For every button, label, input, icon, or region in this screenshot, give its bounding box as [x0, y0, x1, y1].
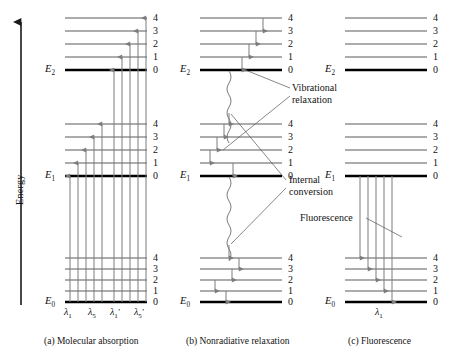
panel-c-E0-v0: 0	[433, 296, 438, 307]
panel-a-wavelength-1-prime: λ1′	[110, 306, 120, 320]
panel-c-E0-v3: 3	[433, 263, 438, 274]
panel-c-E1-manifold	[345, 124, 427, 176]
panel-b-E1-v1: 1	[288, 157, 293, 168]
panel-a-E2-subscript: 2	[51, 69, 55, 77]
panel-b-E0-v1: 1	[288, 285, 293, 296]
annotation-vibrational-relaxation: Vibrational relaxation	[292, 82, 337, 105]
panel-c-E1-label: E1	[325, 169, 335, 183]
panel-c-E1-v4: 4	[433, 118, 438, 129]
panel-a-E0-v0: 0	[153, 296, 158, 307]
panel-c-E2-manifold	[345, 18, 427, 70]
panel-b-E2-label: E2	[180, 63, 190, 77]
panel-b-E0-manifold	[200, 258, 282, 302]
panel-a-E0-manifold	[65, 258, 147, 302]
panel-a-wavelength-1: λ1	[64, 306, 72, 320]
panel-b-leader-internal-conversion	[231, 114, 286, 244]
panel-c-E2-v1: 1	[433, 51, 438, 62]
annotation-vibrational-relaxation-line1: Vibrational	[292, 82, 337, 94]
panel-b-E1-v4: 4	[288, 118, 293, 129]
figure-canvas: Energy E2 E1 E0 4 3 2 1 0 4 3 2 1 0 4 3 …	[0, 0, 471, 361]
panel-b-E0-v3: 3	[288, 263, 293, 274]
panel-a-E2-v2: 2	[153, 38, 158, 49]
panel-a-E2-v3: 3	[153, 25, 158, 36]
panel-b-E0-v4: 4	[288, 252, 293, 263]
panel-a-E1-v4: 4	[153, 118, 158, 129]
panel-c-E0-v1: 1	[433, 285, 438, 296]
panel-c-wavelength-1: λ1	[375, 306, 383, 320]
panel-a-E0-v1: 1	[153, 285, 158, 296]
panel-c-E0-manifold	[345, 258, 427, 302]
panel-a-E1-subscript: 1	[51, 175, 55, 183]
annotation-vibrational-relaxation-line2: relaxation	[292, 94, 337, 106]
panel-a-E2-v1: 1	[153, 51, 158, 62]
panel-b-E2-v3: 3	[288, 25, 293, 36]
panel-c-E1-v3: 3	[433, 131, 438, 142]
panel-b-E2-v1: 1	[288, 51, 293, 62]
panel-b-E2-v0: 0	[288, 64, 293, 75]
panel-a-E1-v3: 3	[153, 131, 158, 142]
annotation-internal-conversion-line2: conversion	[289, 186, 333, 198]
panel-a-E2-v4: 4	[153, 12, 158, 23]
panel-c-E1-v1: 1	[433, 157, 438, 168]
panel-b-E1-v3: 3	[288, 131, 293, 142]
annotation-fluorescence: Fluorescence	[300, 212, 353, 224]
panel-b-E0-v2: 2	[288, 274, 293, 285]
caption-panel-c: (c) Fluorescence	[348, 336, 411, 346]
panel-c-E2-v0: 0	[433, 64, 438, 75]
panel-b-internal-conversion-upper	[227, 71, 231, 143]
panel-c-E2-label: E2	[325, 63, 335, 77]
panel-b-E0-v0: 0	[288, 296, 293, 307]
panel-a-E2-manifold	[65, 18, 147, 70]
panel-a-E0-v3: 3	[153, 263, 158, 274]
panel-a-wavelength-5-prime: λ5′	[134, 306, 144, 320]
panel-b-E2-v4: 4	[288, 12, 293, 23]
caption-panel-a: (a) Molecular absorption	[44, 336, 138, 346]
panel-c-E2-v3: 3	[433, 25, 438, 36]
panel-c-E1-v0: 0	[433, 170, 438, 181]
panel-b-internal-conversion-lower	[227, 177, 231, 261]
panel-b-E1-v2: 2	[288, 144, 293, 155]
panel-a-E2-label: E2	[45, 63, 55, 77]
panel-b-E0-label: E0	[180, 295, 190, 309]
panel-a-E1-v1: 1	[153, 157, 158, 168]
panel-c-E0-v4: 4	[433, 252, 438, 263]
panel-c-E2-v2: 2	[433, 38, 438, 49]
panel-a-E0-label: E0	[45, 295, 55, 309]
panel-c-fluorescence-arrows	[360, 176, 392, 302]
panel-b-E1-label: E1	[180, 169, 190, 183]
panel-a-absorption-arrows-E2	[114, 18, 146, 302]
panel-b-nonradiative	[200, 18, 290, 302]
panel-a-E0-subscript: 0	[51, 301, 55, 309]
panel-b-E1-manifold	[200, 124, 282, 176]
panel-a-E2-v0: 0	[153, 64, 158, 75]
panel-c-E1-v2: 2	[433, 144, 438, 155]
panel-c-E0-label: E0	[325, 295, 335, 309]
panel-c-E0-v2: 2	[433, 274, 438, 285]
panel-a-E0-v2: 2	[153, 274, 158, 285]
panel-b-leader-vibrational-relaxation	[223, 69, 290, 150]
energy-axis-label: Energy	[14, 175, 25, 206]
panel-c-E2-v4: 4	[433, 12, 438, 23]
panel-b-E2-v2: 2	[288, 38, 293, 49]
panel-b-E2-manifold	[200, 18, 282, 70]
panel-a-absorption	[65, 18, 147, 302]
panel-a-absorption-arrows-E1	[70, 124, 102, 302]
panel-a-E1-manifold	[65, 124, 147, 176]
panel-a-wavelength-5: λ5	[88, 306, 96, 320]
panel-a-E1-v0: 0	[153, 170, 158, 181]
caption-panel-b: (b) Nonradiative relaxation	[186, 336, 289, 346]
panel-c-fluorescence	[345, 18, 427, 302]
panel-a-E1-label: E1	[45, 169, 55, 183]
panel-a-E1-v2: 2	[153, 144, 158, 155]
panel-a-E0-v4: 4	[153, 252, 158, 263]
